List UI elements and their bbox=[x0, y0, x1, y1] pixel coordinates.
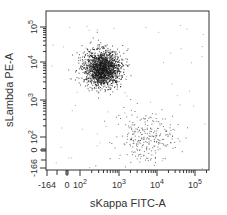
plot-frame bbox=[46, 11, 209, 170]
svg-text:104: 104 bbox=[27, 55, 39, 69]
x-axis-ticks: -1640102103104105 bbox=[38, 170, 206, 190]
svg-text:104: 104 bbox=[150, 178, 164, 190]
svg-text:105: 105 bbox=[188, 178, 202, 190]
svg-text:102: 102 bbox=[73, 178, 87, 190]
y-axis-title: sLambda PE-A bbox=[3, 52, 15, 127]
x-axis-title: sKappa FITC-A bbox=[90, 197, 166, 209]
svg-text:105: 105 bbox=[27, 20, 39, 34]
flow-cytometry-dot-plot: -1640102103104105 1051041031020-166 sKap… bbox=[0, 0, 227, 215]
svg-text:0: 0 bbox=[64, 180, 69, 190]
svg-text:103: 103 bbox=[27, 93, 39, 107]
y-axis-ticks: 1051041031020-166 bbox=[27, 20, 46, 177]
svg-text:0: 0 bbox=[29, 147, 39, 152]
svg-text:103: 103 bbox=[112, 178, 126, 190]
svg-text:102: 102 bbox=[27, 130, 39, 144]
event-dots bbox=[52, 25, 206, 169]
svg-text:-166: -166 bbox=[29, 159, 39, 177]
svg-text:-164: -164 bbox=[38, 180, 56, 190]
